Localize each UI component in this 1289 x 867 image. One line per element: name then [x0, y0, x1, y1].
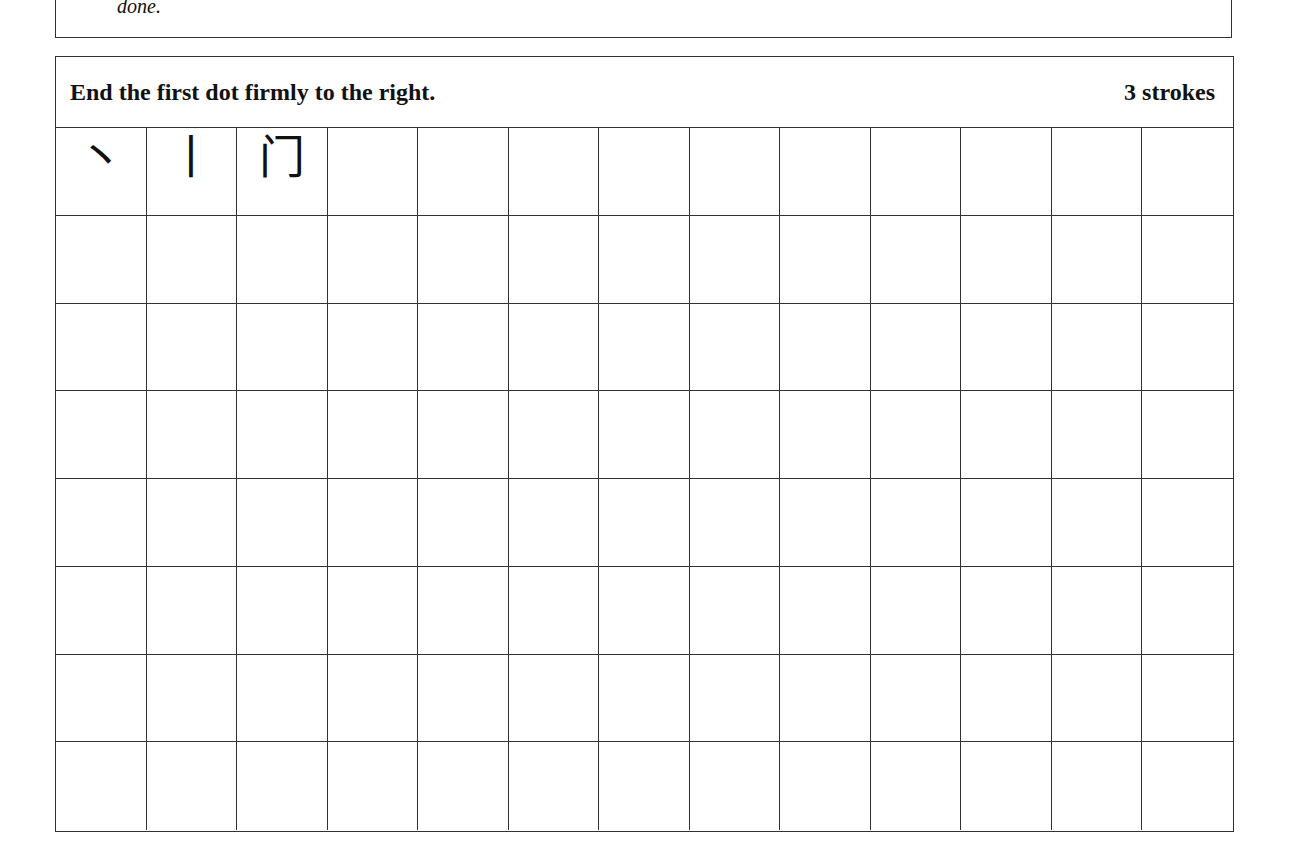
practice-cell: [599, 479, 690, 567]
practice-cell: [690, 655, 781, 743]
practice-cell: [328, 216, 419, 304]
practice-cell: [237, 655, 328, 743]
practice-cell: [328, 479, 419, 567]
practice-cell: [328, 391, 419, 479]
stroke-order-glyph: 丶: [56, 134, 146, 180]
practice-cell: [328, 128, 419, 216]
practice-cell: [418, 216, 509, 304]
practice-cell: [1052, 655, 1143, 743]
practice-cell: [599, 567, 690, 655]
previous-instruction-box: done.: [55, 0, 1232, 38]
practice-cell: [1142, 304, 1233, 392]
practice-cell: [1142, 128, 1233, 216]
practice-cell: [56, 216, 147, 304]
practice-cell: [328, 655, 419, 743]
practice-cell: [56, 304, 147, 392]
practice-cell: [56, 479, 147, 567]
practice-cell: [690, 128, 781, 216]
stroke-count: 3 strokes: [1124, 79, 1215, 106]
practice-cell: [599, 391, 690, 479]
practice-cell: [1142, 655, 1233, 743]
practice-cell: [147, 567, 238, 655]
practice-cell: [780, 391, 871, 479]
practice-cell: [780, 128, 871, 216]
practice-cell: 丶: [56, 128, 147, 216]
practice-cell: [599, 128, 690, 216]
practice-cell: [237, 479, 328, 567]
practice-cell: [509, 655, 600, 743]
stroke-order-glyph: 丨: [147, 134, 237, 180]
practice-cell: [871, 742, 962, 830]
practice-cell: [237, 304, 328, 392]
practice-cell: [237, 391, 328, 479]
practice-cell: [328, 742, 419, 830]
practice-cell: [871, 128, 962, 216]
practice-cell: [871, 655, 962, 743]
practice-cell: [780, 655, 871, 743]
previous-instruction-text: done.: [117, 0, 161, 18]
practice-cell: [599, 655, 690, 743]
practice-cell: [56, 567, 147, 655]
instruction-title: End the first dot firmly to the right.: [70, 79, 435, 106]
practice-cell: [328, 304, 419, 392]
practice-cell: [871, 391, 962, 479]
practice-cell: [1052, 567, 1143, 655]
practice-cell: [1142, 742, 1233, 830]
practice-cell: [237, 216, 328, 304]
practice-cell: [418, 742, 509, 830]
practice-sheet: End the first dot firmly to the right. 3…: [55, 56, 1234, 832]
practice-cell: [56, 655, 147, 743]
practice-grid: 丶丨门: [56, 128, 1233, 830]
practice-cell: [1052, 216, 1143, 304]
practice-cell: [1142, 216, 1233, 304]
practice-cell: [690, 304, 781, 392]
practice-cell: [690, 479, 781, 567]
practice-cell: [418, 304, 509, 392]
practice-cell: [509, 304, 600, 392]
practice-cell: [237, 742, 328, 830]
practice-cell: [961, 567, 1052, 655]
practice-cell: [780, 567, 871, 655]
practice-cell: [418, 128, 509, 216]
practice-cell: [599, 216, 690, 304]
practice-cell: [1052, 479, 1143, 567]
practice-cell: 门: [237, 128, 328, 216]
practice-cell: [1052, 391, 1143, 479]
practice-cell: [147, 479, 238, 567]
practice-cell: [328, 567, 419, 655]
practice-cell: [509, 742, 600, 830]
practice-cell: [237, 567, 328, 655]
practice-cell: [147, 216, 238, 304]
practice-cell: [56, 742, 147, 830]
practice-cell: [599, 304, 690, 392]
practice-cell: [961, 304, 1052, 392]
practice-cell: [509, 391, 600, 479]
practice-cell: [418, 391, 509, 479]
practice-cell: [1142, 479, 1233, 567]
sheet-header: End the first dot firmly to the right. 3…: [56, 57, 1233, 128]
practice-cell: [1052, 304, 1143, 392]
practice-cell: [780, 304, 871, 392]
practice-cell: [147, 742, 238, 830]
practice-cell: [509, 479, 600, 567]
practice-cell: [690, 216, 781, 304]
practice-cell: [509, 128, 600, 216]
practice-cell: 丨: [147, 128, 238, 216]
practice-cell: [780, 742, 871, 830]
practice-cell: [961, 128, 1052, 216]
practice-cell: [56, 391, 147, 479]
practice-cell: [509, 216, 600, 304]
practice-cell: [1052, 128, 1143, 216]
practice-cell: [780, 216, 871, 304]
practice-cell: [961, 479, 1052, 567]
practice-cell: [599, 742, 690, 830]
practice-cell: [961, 742, 1052, 830]
practice-cell: [690, 742, 781, 830]
practice-cell: [147, 391, 238, 479]
practice-cell: [961, 655, 1052, 743]
practice-cell: [147, 304, 238, 392]
practice-cell: [418, 479, 509, 567]
practice-cell: [418, 655, 509, 743]
practice-cell: [1142, 567, 1233, 655]
practice-cell: [1142, 391, 1233, 479]
